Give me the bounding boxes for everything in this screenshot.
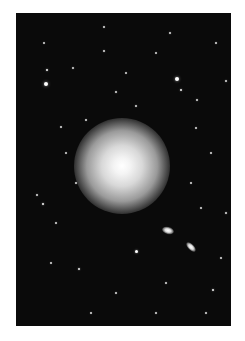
elliptical-galaxy (74, 118, 170, 214)
star (190, 182, 192, 184)
star (210, 152, 212, 154)
star (78, 268, 80, 270)
star (60, 126, 62, 128)
star (175, 77, 179, 81)
star (115, 91, 117, 93)
companion-galaxy (161, 225, 174, 235)
star (50, 262, 52, 264)
star (42, 203, 45, 206)
star (155, 52, 156, 53)
star (212, 289, 215, 292)
star (215, 42, 217, 44)
star (195, 127, 197, 129)
star (135, 250, 138, 253)
star (44, 82, 48, 86)
star (115, 292, 117, 294)
companion-galaxy (185, 241, 198, 254)
star (103, 26, 105, 28)
star (43, 42, 44, 43)
star (125, 72, 126, 73)
star (65, 152, 66, 153)
star (200, 207, 202, 209)
star (90, 312, 92, 314)
star (196, 99, 198, 101)
star (165, 282, 167, 284)
star (169, 32, 171, 34)
star (225, 212, 227, 214)
star (72, 67, 74, 69)
star (46, 69, 49, 72)
star (55, 222, 57, 224)
star (36, 194, 38, 196)
star (180, 89, 183, 92)
star (155, 312, 157, 314)
star (205, 312, 207, 314)
star (220, 257, 222, 259)
star (135, 105, 137, 107)
star (225, 80, 227, 82)
galaxy-photo: Elliptical galaxy in a star field (16, 13, 231, 326)
star (85, 119, 87, 121)
star (103, 50, 105, 52)
